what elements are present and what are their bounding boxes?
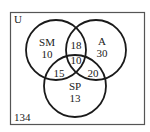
set-sm-label: SM (39, 36, 55, 48)
all-three-count: 10 (71, 54, 83, 66)
a-only-count: 30 (97, 47, 109, 59)
sm-only-count: 10 (42, 48, 54, 60)
universe-label: U (14, 13, 22, 25)
sm-sp-count: 15 (54, 67, 66, 79)
set-a-label: A (98, 35, 106, 47)
venn-diagram: U 134 SM 10 A 30 18 10 15 20 SP 13 (0, 0, 150, 132)
a-sp-count: 20 (88, 67, 100, 79)
set-sp-label: SP (69, 80, 81, 92)
outside-count: 134 (14, 111, 31, 123)
sm-a-count: 18 (71, 39, 83, 51)
sp-only-count: 13 (70, 92, 82, 104)
